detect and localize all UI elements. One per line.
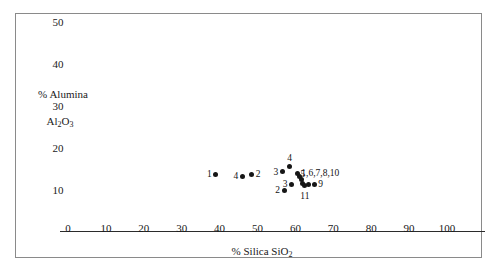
x-tick-label: 60: [290, 223, 301, 234]
x-tick-label: 100: [439, 223, 456, 234]
data-point-label: 5: [301, 169, 306, 179]
data-point: [249, 172, 254, 177]
x-axis-title: % Silica SiO2: [232, 245, 293, 259]
x-tick-label: 50: [252, 223, 263, 234]
data-point: [213, 172, 218, 177]
data-point-label: 4: [234, 171, 239, 181]
x-tick-label: 80: [366, 223, 377, 234]
data-point-label: 3: [273, 167, 278, 177]
data-point: [240, 174, 245, 179]
x-tick-label: 40: [214, 223, 225, 234]
data-point-label: 1,6,7,8,10: [301, 168, 339, 178]
x-tick-label: 30: [176, 223, 187, 234]
data-point-label: 4: [287, 153, 292, 163]
data-point: [306, 182, 311, 187]
y-axis-title-line2: Al2O3: [47, 115, 74, 129]
plot-area: 0102030405060708090100 1020304050 142341…: [0, 0, 497, 274]
x-tick-label: 0: [65, 223, 71, 234]
x-tick-label: 20: [138, 223, 149, 234]
y-tick-label: 40: [53, 59, 64, 70]
data-point-label: 9: [318, 179, 323, 189]
x-axis-line: [60, 231, 485, 232]
data-point-label: 3: [283, 179, 288, 189]
data-point-label: 2: [256, 169, 261, 179]
data-point-label: 11: [300, 191, 309, 201]
x-tick-label: 90: [404, 223, 415, 234]
data-point: [287, 164, 292, 169]
y-tick-label: 30: [53, 101, 64, 112]
data-point-label: 2: [275, 185, 280, 195]
x-tick-label: 10: [100, 223, 111, 234]
y-tick-label: 20: [53, 143, 64, 154]
x-tick-label: 70: [328, 223, 339, 234]
data-point: [280, 169, 285, 174]
y-axis-title-line1: % Alumina: [38, 88, 88, 100]
data-point: [289, 182, 294, 187]
y-tick-label: 50: [53, 17, 64, 28]
data-point-label: 1: [207, 169, 212, 179]
data-point: [312, 182, 317, 187]
y-tick-label: 10: [53, 185, 64, 196]
chart-figure: 0102030405060708090100 1020304050 142341…: [0, 0, 497, 274]
